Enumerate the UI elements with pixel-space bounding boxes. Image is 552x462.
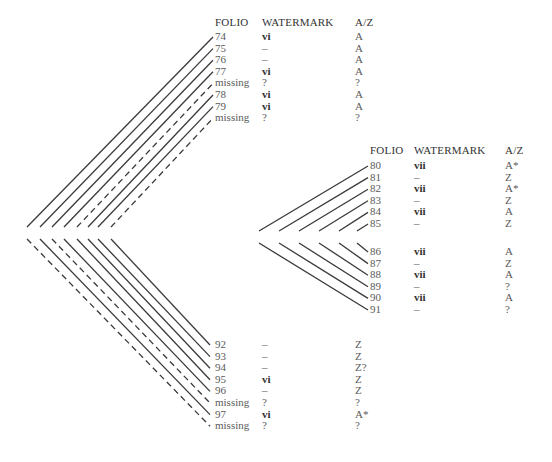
leaf-line [111,118,213,227]
leaf-line [299,243,368,287]
folio-number: 83 [370,195,381,206]
watermark-value: vi [262,31,271,42]
watermark-value: – [262,362,268,373]
watermark-value: – [262,351,268,362]
az-value: Z [355,351,362,362]
az-value: A [505,206,513,217]
folio-number: 81 [370,172,381,183]
az-value: A* [505,160,518,171]
watermark-value: – [414,281,420,292]
folio-number: 95 [215,374,226,385]
leaf-line [64,239,210,391]
az-value: ? [355,397,360,408]
az-value: Z [505,172,512,183]
leaf-line [357,243,368,252]
leaf-line [299,189,368,231]
folio-number: 97 [215,409,226,420]
leaf-line [64,72,213,227]
az-value: ? [355,77,360,88]
watermark-value: – [414,304,420,315]
az-value: A [505,246,513,257]
az-value: A [355,66,363,77]
watermark-value: – [414,258,420,269]
watermark-value: – [414,172,420,183]
az-value: Z [355,339,362,350]
leaf-line [111,239,210,345]
folio-number: 86 [370,246,381,257]
folio-number: 79 [215,101,226,112]
leaf-line [27,239,210,426]
folio-number: 92 [215,339,226,350]
leaf-line [98,107,213,227]
watermark-value: ? [262,397,267,408]
az-value: A [355,43,363,54]
az-value: A [355,31,363,42]
watermark-header: WATERMARK [262,17,333,28]
watermark-header: WATERMARK [414,145,485,156]
watermark-value: vii [414,269,426,280]
folio-number: 96 [215,385,226,396]
leaf-line [339,243,368,264]
watermark-value: vi [262,409,271,420]
folio-number: 88 [370,269,381,280]
az-value: A [505,292,513,303]
watermark-value: vii [414,160,426,171]
folio-number: missing [215,397,249,408]
watermark-value: – [414,218,420,229]
folio-number: 74 [215,31,226,42]
az-value: A [355,101,363,112]
folio-header: FOLIO [370,145,403,156]
watermark-value: – [414,195,420,206]
az-value: A [355,89,363,100]
az-value: A [355,54,363,65]
watermark-value: vii [414,246,426,257]
folio-number: missing [215,420,249,431]
folio-number: 78 [215,89,226,100]
leaf-line [88,239,210,368]
folio-number: missing [215,77,249,88]
az-value: ? [355,420,360,431]
az-value: Z [505,218,512,229]
az-value: Z? [355,362,367,373]
az-value: ? [355,112,360,123]
az-value: ? [505,304,510,315]
leaf-line [77,239,210,380]
watermark-value: ? [262,420,267,431]
az-value: Z [505,195,512,206]
az-value: Z [505,258,512,269]
watermark-value: vii [414,292,426,303]
az-value: Z [355,385,362,396]
folio-number: 82 [370,183,381,194]
gathering-diagram [0,0,552,462]
az-header: A/Z [355,17,373,28]
leaf-line [40,239,210,415]
folio-number: 87 [370,258,381,269]
watermark-value: vi [262,101,271,112]
folio-number: 77 [215,66,226,77]
az-value: A* [355,409,368,420]
folio-number: 90 [370,292,381,303]
az-value: A [505,269,513,280]
watermark-value: – [262,339,268,350]
watermark-value: ? [262,77,267,88]
az-value: Z [355,374,362,385]
folio-number: 84 [370,206,381,217]
watermark-value: – [262,43,268,54]
watermark-value: – [262,385,268,396]
leaf-line [40,49,213,227]
leaf-line [52,239,210,403]
watermark-value: vi [262,89,271,100]
watermark-value: vi [262,66,271,77]
az-header: A/Z [505,145,523,156]
watermark-value: vi [262,374,271,385]
leaf-line [279,243,368,298]
folio-number: 93 [215,351,226,362]
leaf-line [98,239,210,357]
watermark-value: vii [414,183,426,194]
folio-number: missing [215,112,249,123]
folio-number: 75 [215,43,226,54]
folio-number: 89 [370,281,381,292]
leaf-line [319,201,368,231]
watermark-value: ? [262,112,267,123]
leaf-line [27,37,213,227]
